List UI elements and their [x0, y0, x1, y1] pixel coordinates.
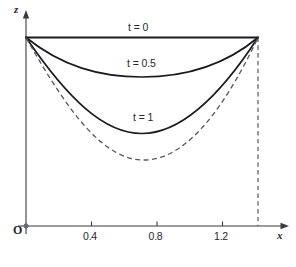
curve-annotation-t05: t = 0.5: [127, 58, 156, 69]
x-tick-label-1: 0.8: [149, 231, 163, 242]
x-axis: [18, 222, 289, 230]
curve-limit-dashed: [26, 38, 258, 161]
z-axis-arrowhead: [23, 10, 29, 19]
origin-label: O: [13, 224, 22, 236]
figure-container: z x O 0.4 0.8 1.2 t = 0 t = 0.5 t = 1: [0, 0, 296, 267]
curve-annotation-t0: t = 0: [128, 22, 148, 33]
z-axis-label: z: [14, 4, 18, 15]
plot-canvas: [0, 0, 296, 267]
curve-annotation-t1: t = 1: [133, 112, 153, 123]
z-axis: [23, 10, 29, 234]
x-tick-label-2: 1.2: [214, 231, 228, 242]
x-tick-label-0: 0.4: [83, 231, 97, 242]
x-axis-label: x: [277, 230, 283, 241]
